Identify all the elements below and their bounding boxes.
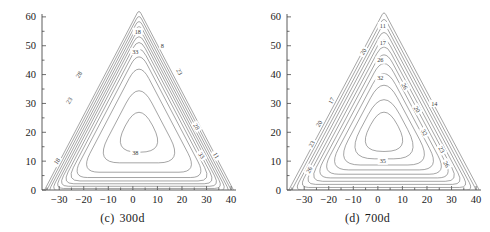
contour-label: 11 bbox=[378, 22, 388, 29]
contour-label: 17 bbox=[378, 39, 388, 46]
contour-label: 23 bbox=[63, 94, 75, 107]
panel-caption-d: (d)700d bbox=[245, 211, 490, 226]
y-tick-label: 0 bbox=[276, 185, 281, 196]
contour-line bbox=[355, 100, 413, 159]
contour-line bbox=[335, 74, 434, 170]
y-tick-label: 40 bbox=[26, 69, 37, 80]
y-tick-label: 30 bbox=[271, 98, 282, 109]
x-tick-label: −30 bbox=[296, 194, 312, 205]
x-tick-label: 20 bbox=[177, 194, 188, 205]
y-tick-label: 50 bbox=[26, 40, 37, 51]
contour-line bbox=[71, 49, 207, 181]
y-tick-label: 20 bbox=[271, 127, 282, 138]
x-tick-label: −30 bbox=[51, 194, 67, 205]
contour-panel-c: 0102030405060−30−20−10010203040183338282… bbox=[0, 0, 245, 232]
caption-text-d: 700d bbox=[365, 211, 390, 225]
panel-caption-c: (c)300d bbox=[0, 211, 245, 226]
contour-label: 32 bbox=[375, 74, 385, 81]
contour-label-text: 38 bbox=[132, 149, 138, 156]
y-tick-label: 50 bbox=[271, 40, 282, 51]
contour-label-text: 32 bbox=[377, 74, 383, 81]
contour-label: 28 bbox=[73, 68, 85, 81]
contour-label: 28 bbox=[191, 120, 203, 133]
x-tick-label: 20 bbox=[422, 194, 433, 205]
y-tick-label: 20 bbox=[26, 127, 37, 138]
contour-line bbox=[42, 12, 236, 198]
x-tick-label: 40 bbox=[471, 194, 482, 205]
contour-label-text: 11 bbox=[380, 22, 386, 29]
x-tick-label: 40 bbox=[226, 194, 237, 205]
contour-label: 20 bbox=[411, 103, 422, 115]
x-tick-label: 0 bbox=[375, 194, 380, 205]
contour-label: 11 bbox=[211, 149, 223, 162]
contour-line bbox=[62, 37, 217, 187]
contour-plot-c: 0102030405060−30−20−10010203040183338282… bbox=[0, 0, 245, 232]
y-tick-label: 10 bbox=[271, 156, 282, 167]
contour-label-text: 26 bbox=[377, 56, 383, 63]
contour-label: 18 bbox=[51, 155, 63, 168]
y-tick-label: 10 bbox=[26, 156, 37, 167]
contour-label-text: 17 bbox=[380, 39, 386, 46]
x-tick-label: −20 bbox=[321, 194, 337, 205]
caption-index-d: (d) bbox=[345, 211, 360, 225]
contour-line bbox=[344, 85, 425, 165]
contour-label: 23 bbox=[174, 65, 186, 78]
contour-line-group bbox=[42, 12, 236, 198]
contour-label: 20 bbox=[357, 45, 368, 57]
x-tick-label: 10 bbox=[152, 194, 163, 205]
contour-label-text: 18 bbox=[135, 28, 141, 35]
contour-label: 23 bbox=[436, 143, 447, 155]
contour-line bbox=[58, 32, 221, 189]
x-tick-label: −20 bbox=[76, 194, 92, 205]
contour-label: 32 bbox=[419, 126, 430, 138]
contour-label: 33 bbox=[196, 149, 208, 162]
contour-label: 38 bbox=[130, 149, 140, 156]
y-tick-label: 40 bbox=[271, 69, 282, 80]
contour-panel-d: 0102030405060−30−20−10010203040111726323… bbox=[245, 0, 490, 232]
caption-index-c: (c) bbox=[100, 211, 114, 225]
contour-label: 35 bbox=[378, 157, 388, 164]
x-tick-label: 30 bbox=[446, 194, 457, 205]
contour-label-text: 8 bbox=[161, 42, 164, 49]
contour-line bbox=[365, 112, 402, 151]
contour-line bbox=[50, 22, 228, 193]
contour-label: 26 bbox=[399, 80, 410, 92]
x-tick-label: 0 bbox=[130, 194, 135, 205]
contour-line bbox=[46, 17, 232, 195]
contour-label-text: 14 bbox=[431, 100, 438, 107]
contour-label: 20 bbox=[313, 117, 324, 129]
contour-label: 8 bbox=[159, 42, 165, 49]
x-tick-label: 10 bbox=[397, 194, 408, 205]
y-tick-label: 60 bbox=[26, 11, 37, 22]
x-tick-label: 30 bbox=[201, 194, 212, 205]
contour-label: 18 bbox=[133, 28, 143, 35]
contour-label: 17 bbox=[325, 94, 336, 106]
contour-line bbox=[120, 112, 157, 152]
contour-plot-d: 0102030405060−30−20−10010203040111726323… bbox=[245, 0, 490, 232]
contour-label: 14 bbox=[429, 100, 439, 107]
contour-label: 26 bbox=[375, 56, 385, 63]
y-tick-label: 60 bbox=[271, 11, 282, 22]
x-tick-label: −10 bbox=[345, 194, 361, 205]
contour-label: 33 bbox=[130, 48, 140, 55]
figure-root: 0102030405060−30−20−10010203040183338282… bbox=[0, 0, 490, 232]
contour-label-text: 35 bbox=[380, 157, 386, 164]
x-tick-label: −10 bbox=[100, 194, 116, 205]
y-tick-label: 30 bbox=[26, 98, 37, 109]
caption-text-c: 300d bbox=[120, 211, 145, 225]
y-tick-label: 0 bbox=[31, 185, 36, 196]
contour-label-text: 33 bbox=[132, 48, 138, 55]
